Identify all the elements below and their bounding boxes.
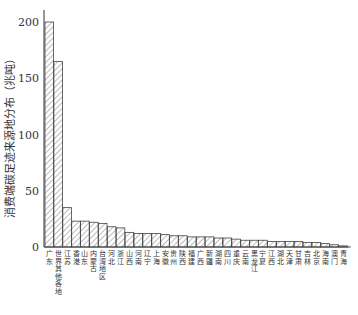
bar bbox=[339, 246, 348, 247]
y-tick-label: 50 bbox=[25, 185, 39, 198]
x-tick-label: 海 bbox=[340, 257, 347, 266]
x-axis-labels: 广东世界其他各地江苏香港山东内蒙古台湾地区河北浙江山西河南辽宁上海安徽贵州陕西福… bbox=[46, 249, 347, 296]
x-tick-label: 西 bbox=[268, 258, 275, 266]
x-tick-label: 京 bbox=[313, 257, 320, 266]
x-tick-label: 南 bbox=[215, 257, 222, 266]
x-tick-label: 津 bbox=[286, 258, 293, 266]
x-tick-label: 林 bbox=[304, 257, 311, 266]
bar bbox=[72, 221, 81, 247]
x-tick-label: 疆 bbox=[206, 258, 213, 266]
bar-chart: 050100150200 广东世界其他各地江苏香港山东内蒙古台湾地区河北浙江山西… bbox=[0, 0, 358, 315]
bar bbox=[241, 240, 250, 247]
x-tick-label: 区 bbox=[99, 273, 106, 281]
x-tick-label: 川 bbox=[224, 258, 231, 266]
x-tick-label: 门 bbox=[331, 257, 338, 266]
bar bbox=[232, 239, 241, 247]
x-tick-label: 西 bbox=[126, 258, 133, 266]
bar bbox=[223, 238, 232, 247]
bar bbox=[116, 228, 125, 247]
x-tick-label: 东 bbox=[46, 257, 53, 266]
x-tick-label: 古 bbox=[90, 264, 97, 273]
bar bbox=[214, 238, 223, 247]
bar bbox=[143, 234, 152, 248]
y-axis-label: 消费端碳足迹来源地分布（兆吨） bbox=[3, 53, 17, 218]
x-tick-label: 南 bbox=[135, 257, 142, 266]
x-tick-label: 地 bbox=[55, 287, 62, 296]
bar bbox=[196, 237, 205, 247]
x-tick-label: 西 bbox=[197, 258, 204, 266]
bar bbox=[205, 237, 214, 247]
bar bbox=[54, 61, 63, 247]
bar bbox=[285, 241, 294, 247]
x-tick-label: 夏 bbox=[259, 258, 266, 266]
bar bbox=[98, 223, 107, 247]
bar bbox=[152, 234, 161, 248]
x-tick-label: 北 bbox=[277, 258, 284, 266]
bar bbox=[179, 236, 188, 247]
x-tick-label: 苏 bbox=[64, 257, 71, 266]
bar bbox=[90, 222, 99, 247]
x-tick-label: 州 bbox=[170, 258, 177, 266]
bar bbox=[81, 221, 90, 247]
x-tick-label: 江 bbox=[251, 265, 258, 273]
bar bbox=[303, 243, 312, 248]
bar bbox=[259, 240, 268, 247]
x-tick-label: 徽 bbox=[162, 257, 169, 266]
x-tick-label: 江 bbox=[117, 258, 124, 266]
bar bbox=[107, 227, 116, 247]
bars bbox=[45, 22, 347, 247]
chart-canvas: 050100150200 广东世界其他各地江苏香港山东内蒙古台湾地区河北浙江山西… bbox=[0, 0, 358, 315]
bar bbox=[250, 240, 259, 247]
x-tick-label: 海 bbox=[153, 257, 160, 266]
x-tick-label: 东 bbox=[81, 257, 88, 266]
bar bbox=[63, 208, 72, 247]
bar bbox=[125, 232, 134, 247]
y-tick-label: 200 bbox=[18, 16, 39, 29]
x-tick-label: 西 bbox=[179, 258, 186, 266]
bar bbox=[276, 241, 285, 247]
bar bbox=[312, 243, 321, 248]
bar bbox=[161, 235, 170, 247]
x-tick-label: 宁 bbox=[144, 257, 151, 266]
bar bbox=[45, 22, 54, 247]
bar bbox=[330, 245, 339, 247]
x-tick-label: 庆 bbox=[233, 257, 240, 266]
bar bbox=[187, 237, 196, 247]
y-tick-label: 100 bbox=[18, 129, 39, 142]
bar bbox=[321, 244, 330, 247]
y-tick-label: 150 bbox=[18, 72, 39, 85]
bar bbox=[294, 241, 303, 247]
x-tick-label: 南 bbox=[322, 257, 329, 266]
x-tick-label: 北 bbox=[108, 258, 115, 266]
bar bbox=[170, 236, 179, 247]
x-tick-label: 港 bbox=[73, 257, 80, 266]
y-tick-label: 0 bbox=[32, 241, 39, 254]
bar bbox=[134, 234, 143, 248]
x-tick-label: 南 bbox=[242, 257, 249, 266]
x-tick-label: 肃 bbox=[295, 257, 302, 266]
x-tick-label: 建 bbox=[188, 257, 195, 266]
bar bbox=[268, 241, 277, 247]
